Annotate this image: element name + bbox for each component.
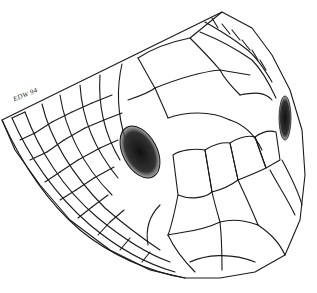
left-eye [112, 119, 168, 184]
eyes [112, 96, 291, 185]
snake-head-drawing [0, 0, 317, 293]
supralabial-scales [173, 131, 280, 198]
infralabial-scales [147, 160, 302, 272]
head-plates [128, 12, 276, 150]
right-eye [279, 96, 291, 140]
